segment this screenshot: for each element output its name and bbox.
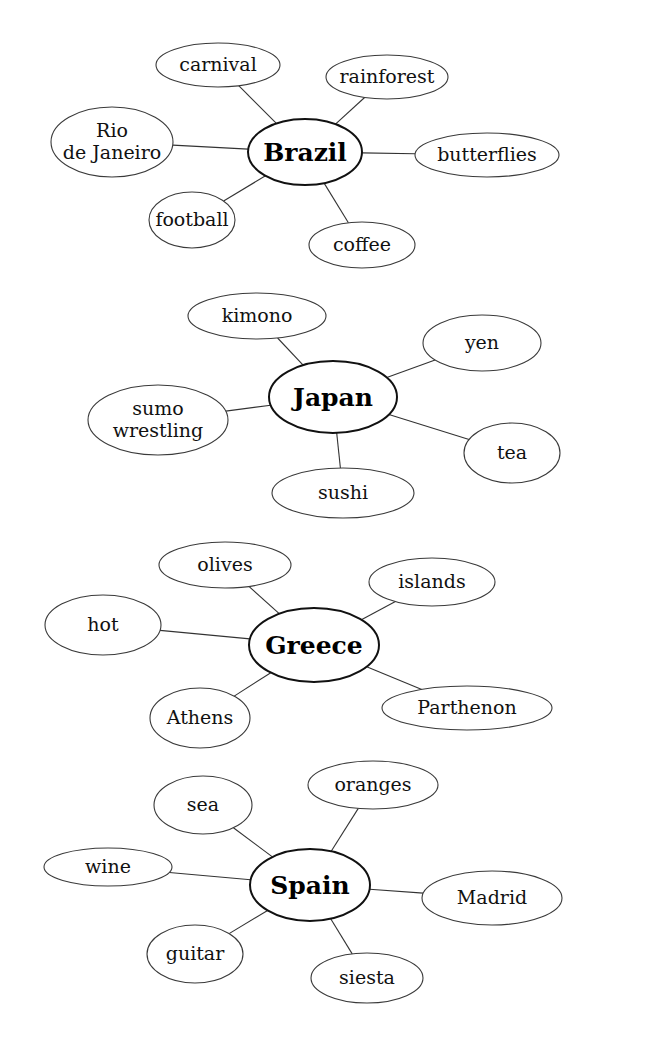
connector-line-japan-yen [387, 360, 435, 378]
connector-line-greece-athens [234, 673, 271, 696]
node-hot: hot [45, 595, 161, 655]
node-butterflies: butterflies [415, 133, 559, 177]
node-madrid: Madrid [422, 871, 562, 925]
node-guitar: guitar [147, 925, 243, 983]
node-yen: yen [423, 315, 541, 371]
node-football: football [149, 192, 235, 248]
connector-line-japan-sushi [337, 433, 341, 468]
node-label: olives [197, 553, 252, 575]
node-label: siesta [339, 966, 395, 988]
connector-line-greece-olives [249, 586, 279, 613]
node-athens: Athens [150, 688, 250, 748]
node-label: Rio [96, 119, 128, 141]
node-label: coffee [333, 233, 391, 255]
node-label: hot [87, 613, 119, 635]
node-label: sushi [318, 481, 368, 503]
connector-line-brazil-football [224, 176, 266, 201]
connector-line-spain-oranges [331, 808, 358, 851]
connector-line-spain-madrid [370, 889, 424, 893]
connector-line-spain-guitar [229, 911, 268, 934]
center-label: Brazil [263, 138, 347, 167]
mind-map-japan: Japankimonoyensumowrestlingteasushi [88, 293, 560, 518]
node-wine: wine [44, 848, 172, 886]
node-label: tea [497, 441, 527, 463]
node-label: sea [187, 793, 219, 815]
node-label: Madrid [457, 886, 527, 908]
node-label: sumo [132, 397, 183, 419]
mind-map-canvas: BrazilcarnivalrainforestRiode Janeirobut… [0, 0, 645, 1051]
mind-map-brazil: BrazilcarnivalrainforestRiode Janeirobut… [51, 43, 559, 268]
connector-line-greece-parthenon [367, 667, 422, 690]
node-label: guitar [166, 942, 225, 964]
mind-map-greece: GreeceolivesislandshotAthensParthenon [45, 542, 552, 748]
center-label: Japan [291, 383, 373, 412]
node-oranges: oranges [308, 761, 438, 809]
node-rio-de-janeiro: Riode Janeiro [51, 107, 173, 177]
node-label: de Janeiro [63, 141, 161, 163]
node-label: oranges [334, 773, 411, 795]
connector-line-brazil-carnival [239, 86, 277, 124]
node-label: wrestling [113, 419, 204, 441]
node-coffee: coffee [309, 222, 415, 268]
node-rainforest: rainforest [326, 55, 448, 99]
center-node-greece: Greece [249, 608, 379, 682]
node-label: carnival [179, 53, 257, 75]
connector-line-spain-sea [233, 828, 272, 857]
node-label: islands [398, 570, 465, 592]
connector-line-japan-tea [389, 415, 469, 440]
connector-line-japan-sumo-wrestling [226, 405, 271, 411]
mind-map-spain: SpainseaorangeswineMadridguitarsiesta [44, 761, 562, 1003]
connector-line-brazil-butterflies [362, 153, 415, 154]
node-sumo-wrestling: sumowrestling [88, 385, 228, 455]
node-label: rainforest [340, 65, 435, 87]
node-label: yen [464, 331, 499, 353]
connector-line-spain-wine [169, 873, 250, 880]
node-tea: tea [464, 423, 560, 483]
node-label: football [155, 208, 228, 230]
connector-line-spain-siesta [331, 919, 353, 954]
node-label: kimono [222, 304, 293, 326]
node-carnival: carnival [156, 43, 280, 87]
node-siesta: siesta [311, 953, 423, 1003]
node-label: Parthenon [417, 696, 516, 718]
node-islands: islands [369, 558, 495, 606]
center-node-japan: Japan [269, 361, 397, 433]
node-label: butterflies [437, 143, 537, 165]
center-label: Greece [265, 631, 362, 660]
connector-line-greece-islands [361, 602, 395, 620]
center-node-spain: Spain [250, 849, 370, 921]
node-parthenon: Parthenon [382, 686, 552, 730]
node-label: wine [85, 855, 131, 877]
connector-line-greece-hot [160, 630, 250, 639]
node-sea: sea [154, 776, 252, 834]
node-kimono: kimono [188, 293, 326, 339]
connector-line-japan-kimono [278, 338, 304, 365]
center-node-brazil: Brazil [248, 119, 362, 185]
connector-line-brazil-rio-de-janeiro [173, 145, 248, 149]
connector-line-brazil-coffee [324, 183, 348, 223]
node-label: Athens [166, 706, 234, 728]
node-sushi: sushi [272, 468, 414, 518]
connector-line-brazil-rainforest [336, 98, 365, 125]
node-olives: olives [159, 542, 291, 588]
center-label: Spain [270, 871, 349, 900]
